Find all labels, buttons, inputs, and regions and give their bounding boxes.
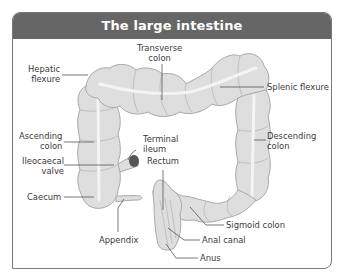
label-caecum: Caecum (27, 192, 61, 202)
appendix-shape (116, 196, 142, 202)
descending-colon-shape (236, 90, 271, 201)
label-hepatic-flexure: Hepatic flexure (28, 64, 60, 84)
label-ileocaecal-valve: Ileocaecal valve (22, 156, 64, 176)
label-terminal-ileum: Terminal ileum (143, 134, 178, 154)
label-ascending-colon: Ascending colon (19, 131, 62, 151)
label-transverse-colon: Transverse colon (137, 43, 182, 63)
label-descending-colon: Descending colon (267, 131, 316, 151)
rectum-shape (153, 180, 181, 250)
label-anal-canal: Anal canal (202, 235, 246, 245)
label-appendix: Appendix (99, 235, 138, 245)
label-sigmoid-colon: Sigmoid colon (226, 220, 285, 230)
label-splenic-flexure: Splenic flexure (267, 82, 329, 92)
label-anus: Anus (200, 253, 221, 263)
ileum-end-dot (129, 155, 139, 167)
terminal-ileum-shape (118, 155, 139, 172)
label-rectum: Rectum (147, 156, 179, 166)
